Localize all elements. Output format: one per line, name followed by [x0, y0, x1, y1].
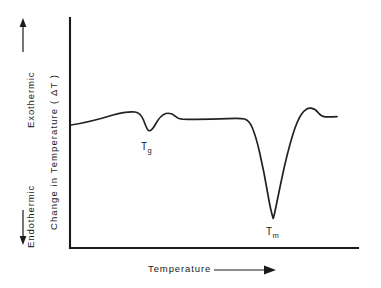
y-axis-quantity-label: Change in Temperature ( ΔT ): [48, 74, 59, 230]
y-axis-exothermic-label: Exothermic: [25, 71, 36, 128]
tm-subscript: m: [272, 231, 278, 240]
dsc-thermogram-figure: Exothermic Endothermic Change in Tempera…: [0, 0, 381, 288]
glass-transition-label: Tg: [141, 141, 152, 155]
exothermic-arrow-icon: [20, 18, 27, 52]
dsc-curve: [71, 108, 337, 218]
temperature-arrow-icon: [214, 266, 276, 275]
x-axis-label: Temperature: [148, 263, 211, 274]
melting-point-label: Tm: [266, 226, 279, 240]
tg-subscript: g: [147, 146, 151, 155]
y-axis-endothermic-label: Endothermic: [25, 185, 36, 248]
